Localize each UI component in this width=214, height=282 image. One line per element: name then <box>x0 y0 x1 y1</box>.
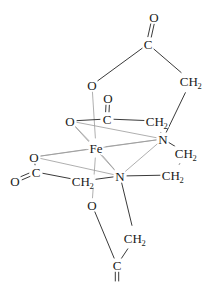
atom-label-nitrogen-N_lower: N <box>114 170 125 183</box>
atom-label-methylene-CH2_right_lower: CH2 <box>161 169 185 182</box>
bond-O_left_lower-N_lower <box>41 159 113 175</box>
atom-label-methylene-CH2_bottom: CH2 <box>123 232 147 245</box>
bond-N_upper-N_lower <box>125 144 157 172</box>
atom-label-methylene-CH2_left_lower: CH2 <box>71 175 95 188</box>
atom-label-oxygen-O_top_left: O <box>86 79 97 92</box>
bond-O_top_left-Fe_center <box>92 92 95 138</box>
bond-C_top-CH2_top_right <box>153 49 181 73</box>
atom-label-oxygen-O_left_upper: O <box>64 115 75 128</box>
bond-C_mid-CH2_mid <box>114 119 144 120</box>
atom-label-oxygen-O_bottom: O <box>86 199 97 212</box>
bond-N_lower-CH2_bottom <box>122 183 132 226</box>
bond-C_bottom-O_bottom <box>95 211 115 258</box>
atom-label-carbon-C_mid: C <box>102 113 113 126</box>
bond-C_left-CH2_left_lower <box>43 173 70 178</box>
bond-Fe_center-N_lower <box>103 156 116 171</box>
chemical-structure-diagram: OCCH2OOCCH2ONFeCH2OCCH2NOCH2OCH2C <box>0 0 214 282</box>
atom-label-oxygen-O_top_carbonyl: O <box>148 11 159 24</box>
atom-label-oxygen-O_far_left: O <box>9 175 20 188</box>
bond-C_top-O_top_carbonyl <box>148 23 151 36</box>
bond-C_left-O_far_left <box>21 173 29 176</box>
atom-label-methylene-CH2_mid: CH2 <box>145 115 169 128</box>
bond-C_mid-O_left_upper <box>77 119 100 120</box>
bond-layer <box>0 0 214 282</box>
atom-label-nitrogen-N_upper: N <box>157 133 168 146</box>
bond-C_top-O_top_left <box>98 48 143 81</box>
bond-CH2_right_lower-N_lower <box>127 175 160 176</box>
bond-CH2_left_lower-N_lower <box>96 177 113 179</box>
atom-label-methylene-CH2_right_upper: CH2 <box>174 147 198 160</box>
atom-label-carbon-C_left: C <box>31 166 42 179</box>
atom-label-methylene-CH2_top_right: CH2 <box>179 75 203 88</box>
atom-label-iron-Fe_center: Fe <box>89 142 104 155</box>
atom-label-carbon-C_top: C <box>143 38 154 51</box>
bond-C_left-O_far_left <box>22 176 30 179</box>
atom-label-carbon-C_bottom: C <box>112 259 123 272</box>
atom-label-oxygen-O_left_lower: O <box>28 151 39 164</box>
atom-label-oxygen-O_mid_carbonyl: O <box>102 92 113 105</box>
